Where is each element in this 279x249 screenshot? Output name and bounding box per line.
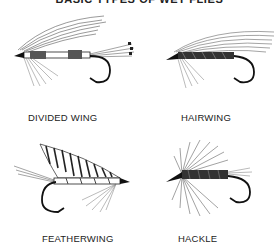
hairwing-fly-illustration bbox=[162, 22, 277, 94]
featherwing-fly-illustration bbox=[6, 138, 136, 220]
hairwing-fly-icon bbox=[162, 22, 277, 94]
hackle-fly-icon bbox=[160, 136, 275, 222]
hairwing-label: HAIRWING bbox=[181, 112, 231, 123]
divided-wing-fly-icon bbox=[10, 14, 140, 94]
featherwing-label: FEATHERWING bbox=[42, 233, 114, 244]
divided-wing-fly-illustration bbox=[10, 14, 140, 94]
hackle-fly-illustration bbox=[160, 136, 275, 222]
divided-wing-label: DIVIDED WING bbox=[28, 112, 97, 123]
featherwing-fly-icon bbox=[6, 138, 136, 220]
hackle-label: HACKLE bbox=[178, 233, 217, 244]
diagram-title: BASIC TYPES OF WET FLIES bbox=[0, 0, 279, 5]
